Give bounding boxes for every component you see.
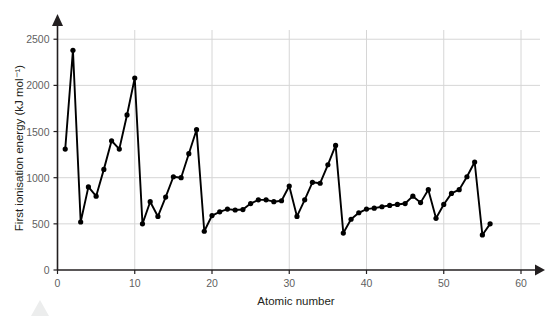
data-point-Ag [418, 200, 423, 205]
x-tick-labels: 0102030405060 [55, 277, 527, 289]
data-point-Y [356, 210, 361, 215]
tick-marks [54, 39, 522, 274]
data-point-He [70, 48, 75, 53]
data-point-S [179, 175, 184, 180]
data-point-I [464, 174, 469, 179]
data-point-Li [78, 219, 83, 224]
data-point-Xe [472, 159, 477, 164]
data-point-Sr [348, 217, 353, 222]
y-tick-labels: 05001000150020002500 [26, 33, 50, 276]
data-point-Te [457, 187, 462, 192]
data-point-Cu [279, 198, 284, 203]
data-point-Pd [410, 194, 415, 199]
y-axis-arrow [52, 14, 63, 26]
data-point-F [124, 112, 129, 117]
data-point-Ar [194, 127, 199, 132]
data-point-Se [318, 181, 323, 186]
data-point-Mo [379, 204, 384, 209]
data-point-Mg [148, 199, 153, 204]
data-point-K [202, 229, 207, 234]
data-point-Co [263, 197, 268, 202]
x-tick-label-50: 50 [438, 277, 450, 289]
y-tick-label-0: 0 [44, 264, 50, 276]
data-point-markers [63, 48, 493, 238]
data-point-Ti [225, 206, 230, 211]
data-point-Ge [302, 197, 307, 202]
ionisation-energy-chart: 05001000150020002500 0102030405060 Atomi… [0, 0, 552, 322]
x-tick-label-20: 20 [206, 277, 218, 289]
data-point-Ru [395, 202, 400, 207]
y-tick-label-1500: 1500 [26, 126, 50, 138]
x-tick-label-10: 10 [129, 277, 141, 289]
data-point-Br [325, 162, 330, 167]
horizontal-gridlines [58, 39, 541, 224]
data-point-Ne [132, 75, 137, 80]
data-line-series-0 [65, 50, 490, 235]
data-point-Ni [271, 199, 276, 204]
data-point-Rb [341, 230, 346, 235]
x-tick-label-0: 0 [55, 277, 61, 289]
data-point-Rh [403, 201, 408, 206]
data-point-C [101, 167, 106, 172]
data-point-Zn [287, 183, 292, 188]
data-point-Ba [488, 221, 493, 226]
data-point-Tc [387, 203, 392, 208]
data-point-Fe [256, 197, 261, 202]
y-axis-title: First ionisation energy (kJ mol⁻¹) [13, 65, 25, 232]
y-tick-label-1000: 1000 [26, 172, 50, 184]
data-point-Zr [364, 206, 369, 211]
x-tick-label-40: 40 [361, 277, 373, 289]
data-point-Ga [294, 214, 299, 219]
chart-canvas: 05001000150020002500 0102030405060 Atomi… [0, 0, 552, 322]
data-point-Sn [441, 202, 446, 207]
data-point-Ca [209, 213, 214, 218]
data-point-Cd [426, 187, 431, 192]
y-tick-label-500: 500 [32, 218, 50, 230]
data-point-Cr [240, 207, 245, 212]
data-point-Sc [217, 209, 222, 214]
y-tick-label-2500: 2500 [26, 33, 50, 45]
data-point-Kr [333, 143, 338, 148]
x-axis-arrow [535, 265, 545, 276]
data-point-Nb [372, 206, 377, 211]
data-point-N [109, 138, 114, 143]
data-point-B [94, 194, 99, 199]
data-point-Mn [248, 201, 253, 206]
data-point-As [310, 180, 315, 185]
data-point-Na [140, 221, 145, 226]
x-tick-label-60: 60 [515, 277, 527, 289]
y-tick-label-2000: 2000 [26, 79, 50, 91]
data-point-Be [86, 184, 91, 189]
data-point-O [117, 146, 122, 151]
data-point-Al [155, 214, 160, 219]
x-axis-title: Atomic number [257, 295, 335, 307]
x-tick-label-30: 30 [283, 277, 295, 289]
data-point-V [233, 207, 238, 212]
data-point-Cl [186, 151, 191, 156]
vertical-gridlines [135, 30, 521, 270]
axis-lines [52, 14, 545, 276]
data-point-Sb [449, 191, 454, 196]
data-point-H [63, 146, 68, 151]
triangle-watermark-icon [31, 300, 49, 316]
data-point-In [433, 216, 438, 221]
data-point-Si [163, 194, 168, 199]
data-point-Cs [480, 232, 485, 237]
data-point-P [171, 174, 176, 179]
